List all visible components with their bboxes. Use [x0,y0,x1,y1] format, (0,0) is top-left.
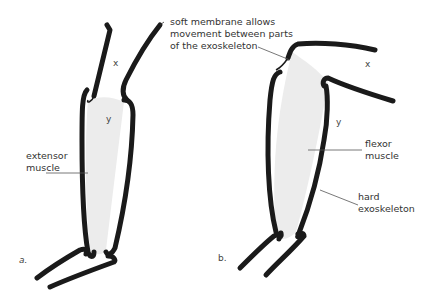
panel-b-y-label: y [336,116,341,128]
extensor-label: extensor muscle [26,150,68,174]
flexor-muscle-shape [274,52,328,239]
flexor-label: flexor muscle [365,138,399,162]
panel-a-y-label: y [106,113,111,125]
exoskeleton-label: hard exoskeleton [358,191,415,215]
exoskeleton-leader-line [320,190,358,205]
upper-segment-left-wall [94,25,110,96]
membrane-label-line-1: soft membrane allows [170,16,293,28]
exoskeleton-label-line-1: hard [358,191,415,203]
upper-segment-top-wall [288,43,375,58]
distal-segment-upper-wall [240,235,279,268]
upper-segment-right-wall [123,25,160,100]
panel-b-caption: b. [218,252,227,264]
extensor-label-line-1: extensor [26,150,68,162]
exoskeleton-label-line-2: exoskeleton [358,203,415,215]
panel-a-caption: a. [19,254,27,266]
soft-membrane [276,58,288,70]
flexor-label-line-2: muscle [365,150,399,162]
panel-b-x-label: x [365,58,370,70]
panel-a-x-label: x [113,57,118,69]
membrane-label: soft membrane allows movement between pa… [170,16,293,52]
flexor-label-line-1: flexor [365,138,399,150]
arthropod-joint-diagram: x y x y a. b. soft membrane allows movem… [0,0,438,303]
upper-segment-bottom-wall [323,78,393,101]
membrane-label-line-2: movement between parts [170,28,293,40]
extensor-label-line-2: muscle [26,162,68,174]
membrane-label-line-3: of the exoskeleton [170,40,293,52]
